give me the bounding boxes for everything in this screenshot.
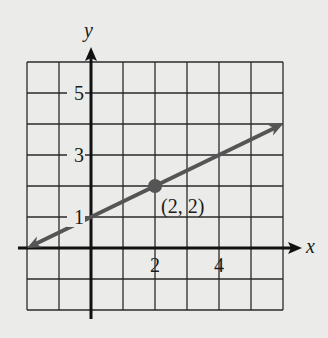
y-tick-label: 1 [74, 206, 84, 228]
y-tick-label: 5 [74, 82, 84, 104]
point-marker [148, 179, 162, 193]
coordinate-plane: (2, 2) 24135 x y [0, 0, 328, 338]
x-tick-label: 2 [150, 254, 160, 276]
y-axis-label: y [82, 19, 93, 42]
x-axis-label: x [305, 235, 315, 257]
point-label: (2, 2) [161, 195, 204, 218]
x-tick-label: 4 [214, 254, 224, 276]
y-tick-label: 3 [74, 144, 84, 166]
